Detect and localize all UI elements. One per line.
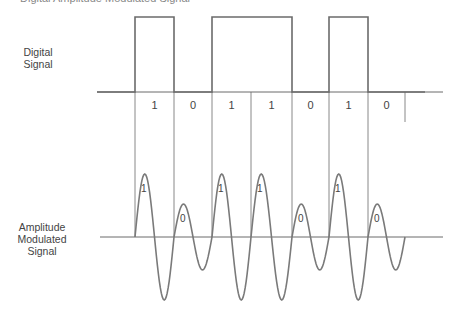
- bit-label: 0: [383, 99, 389, 111]
- bit-label: 0: [307, 99, 313, 111]
- bit-labels: 1011010: [151, 99, 389, 111]
- bit-label: 1: [345, 99, 351, 111]
- amplitude-bit-label: 0: [180, 213, 186, 224]
- am-signal-label: Amplitude Modulated Signal: [4, 221, 80, 257]
- digital-signal-label: Digital Signal: [8, 46, 68, 70]
- amplitude-bit-label: 0: [298, 213, 304, 224]
- bit-label: 1: [268, 99, 274, 111]
- bit-label: 0: [190, 99, 196, 111]
- am-signal: 1011010: [100, 174, 443, 300]
- digital-waveform: [97, 17, 425, 92]
- bit-label: 1: [228, 99, 234, 111]
- amplitude-bit-label: 0: [374, 213, 380, 224]
- digital-signal: [97, 17, 443, 92]
- bit-label: 1: [151, 99, 157, 111]
